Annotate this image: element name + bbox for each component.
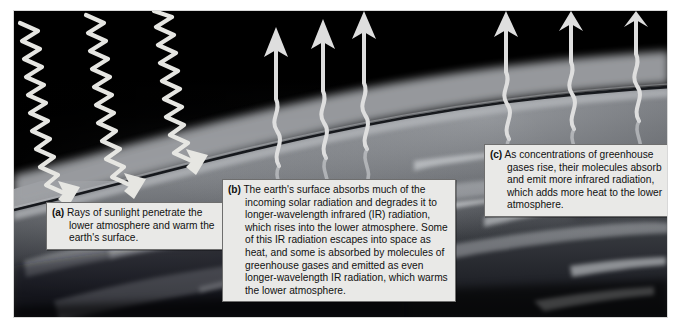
caption-a-label: (a) bbox=[52, 207, 64, 218]
caption-c-text: As concentrations of greenhouse gases ri… bbox=[504, 149, 662, 210]
caption-c: (c) As concentrations of greenhouse gase… bbox=[484, 144, 668, 217]
satellite-photo-panel: (a) Rays of sunlight penetrate the lower… bbox=[13, 10, 668, 318]
caption-b: (b) The earth's surface absorbs much of … bbox=[222, 179, 456, 302]
caption-b-text: The earth's surface absorbs much of the … bbox=[243, 184, 447, 296]
caption-c-label: (c) bbox=[490, 149, 502, 160]
caption-b-label: (b) bbox=[228, 184, 241, 195]
greenhouse-effect-figure: (a) Rays of sunlight penetrate the lower… bbox=[0, 0, 682, 330]
caption-a-text: Rays of sunlight penetrate the lower atm… bbox=[67, 207, 215, 243]
caption-a: (a) Rays of sunlight penetrate the lower… bbox=[46, 202, 223, 250]
